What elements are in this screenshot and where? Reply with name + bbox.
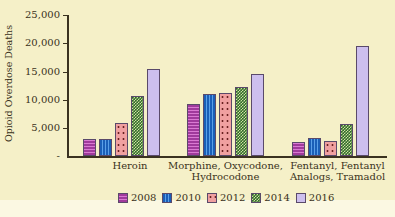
bar-heroin-2016 bbox=[147, 69, 160, 156]
y-tick-5000: 5,000 bbox=[10, 122, 60, 133]
chart-panel: Opioid Overdose Deaths - 5,000 10,000 15… bbox=[0, 0, 395, 200]
bar-heroin-2010 bbox=[99, 139, 112, 156]
legend-swatch bbox=[162, 193, 172, 203]
legend-label: 2010 bbox=[175, 192, 200, 203]
category-line: Fentanyl, Fentanyl bbox=[280, 160, 395, 171]
legend-swatch bbox=[296, 193, 306, 203]
legend-label: 2016 bbox=[309, 192, 334, 203]
bar-morphine-2010 bbox=[203, 94, 216, 156]
category-line: Hydrocodone bbox=[168, 171, 283, 182]
bar-morphine-2014 bbox=[235, 87, 248, 156]
legend-item-2016: 2016 bbox=[296, 192, 334, 203]
legend-item-2010: 2010 bbox=[162, 192, 200, 203]
category-label-fentanyl: Fentanyl, Fentanyl Analogs, Tramadol bbox=[280, 160, 395, 182]
legend-label: 2008 bbox=[131, 192, 156, 203]
bar-heroin-2012 bbox=[115, 123, 128, 156]
category-line: Morphine, Oxycodone, bbox=[168, 160, 283, 171]
bar-morphine-2008 bbox=[187, 104, 200, 156]
legend-swatch bbox=[118, 193, 128, 203]
bar-heroin-2014 bbox=[131, 96, 144, 156]
legend-label: 2014 bbox=[264, 192, 289, 203]
legend-item-2012: 2012 bbox=[207, 192, 245, 203]
y-tick-25000: 25,000 bbox=[10, 9, 60, 20]
legend-item-2014: 2014 bbox=[251, 192, 289, 203]
x-axis bbox=[67, 156, 387, 158]
bar-morphine-2012 bbox=[219, 93, 232, 156]
bar-morphine-2016 bbox=[251, 74, 264, 156]
y-tick-0: - bbox=[10, 150, 60, 161]
category-line: Analogs, Tramadol bbox=[280, 171, 395, 182]
category-label-heroin: Heroin bbox=[90, 160, 170, 171]
bar-heroin-2008 bbox=[83, 139, 96, 156]
legend-label: 2012 bbox=[220, 192, 245, 203]
category-label-morphine: Morphine, Oxycodone, Hydrocodone bbox=[168, 160, 283, 182]
y-tick-15000: 15,000 bbox=[10, 66, 60, 77]
bar-fentanyl-2016 bbox=[356, 46, 369, 156]
category-line: Heroin bbox=[90, 160, 170, 171]
y-tick-10000: 10,000 bbox=[10, 94, 60, 105]
bar-fentanyl-2010 bbox=[308, 138, 321, 156]
legend-swatch bbox=[251, 193, 261, 203]
legend-swatch bbox=[207, 193, 217, 203]
legend-item-2008: 2008 bbox=[118, 192, 156, 203]
legend: 2008 2010 2012 2014 2016 bbox=[118, 192, 334, 203]
bar-fentanyl-2008 bbox=[292, 142, 305, 156]
bar-fentanyl-2014 bbox=[340, 124, 353, 156]
y-tick-20000: 20,000 bbox=[10, 37, 60, 48]
bar-fentanyl-2012 bbox=[324, 141, 337, 156]
y-axis bbox=[67, 15, 69, 157]
